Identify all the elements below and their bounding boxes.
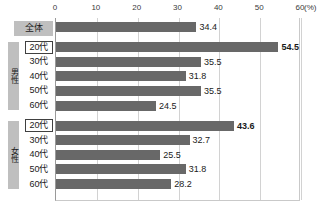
- bar-value-label: 43.6: [237, 121, 255, 131]
- bar-value-label: 31.8: [189, 164, 207, 174]
- bar: [56, 22, 196, 32]
- bar: [56, 121, 234, 131]
- category-label-10: 60代: [25, 178, 53, 191]
- bar-value-label: 31.8: [189, 71, 207, 81]
- bar-row: 31.8: [56, 71, 299, 81]
- bar: [56, 135, 190, 145]
- x-axis-tick-40: 40: [214, 3, 223, 13]
- bar: [56, 101, 156, 111]
- group-tab-label: 男性: [9, 68, 18, 84]
- x-axis-tick-10: 10: [91, 3, 100, 13]
- category-label-6: 20代: [25, 119, 53, 132]
- bar-row: 35.5: [56, 86, 299, 96]
- category-label-3: 40代: [25, 70, 53, 83]
- x-axis-ticks: 0102030405060(%): [55, 0, 313, 18]
- category-label-1: 20代: [25, 41, 53, 54]
- bar-value-label: 35.5: [204, 57, 222, 67]
- group-tab-女性: 女性: [8, 121, 19, 189]
- category-label-7: 30代: [25, 134, 53, 147]
- category-label-8: 40代: [25, 148, 53, 161]
- gridline-60: [301, 18, 302, 200]
- bar-chart: 0102030405060(%) 34.454.535.531.835.524.…: [0, 0, 320, 203]
- bar-row: 28.2: [56, 179, 299, 189]
- category-label-9: 50代: [25, 163, 53, 176]
- bar: [56, 164, 186, 174]
- bar-row: 35.5: [56, 57, 299, 67]
- bar-row: 25.5: [56, 150, 299, 160]
- bar-value-label: 34.4: [199, 22, 217, 32]
- category-label-2: 30代: [25, 55, 53, 68]
- x-axis-unit-label: (%): [304, 3, 316, 13]
- group-tab-label: 女性: [9, 147, 18, 163]
- bar-value-label: 25.5: [163, 150, 181, 160]
- bar-rows: 34.454.535.531.835.524.543.632.725.531.8…: [56, 18, 299, 200]
- group-tab-男性: 男性: [8, 42, 19, 110]
- bar: [56, 57, 201, 67]
- bar: [56, 42, 278, 52]
- x-axis-tick-30: 30: [173, 3, 182, 13]
- x-axis-tick-20: 20: [132, 3, 141, 13]
- bar: [56, 150, 160, 160]
- x-axis-tick-0: 0: [53, 3, 57, 13]
- bar-row: 24.5: [56, 101, 299, 111]
- bar-row: 54.5: [56, 42, 299, 52]
- plot-area: 34.454.535.531.835.524.543.632.725.531.8…: [55, 18, 300, 201]
- bar-value-label: 32.7: [193, 135, 211, 145]
- bar-value-label: 54.5: [281, 42, 299, 52]
- bar-value-label: 35.5: [204, 86, 222, 96]
- bar: [56, 71, 186, 81]
- category-label-0: 全体: [14, 21, 53, 36]
- x-axis-tick-50: 50: [255, 3, 264, 13]
- bar-row: 32.7: [56, 135, 299, 145]
- category-labels: 全体20代30代40代50代60代20代30代40代50代60代男性女性: [0, 18, 55, 201]
- category-label-5: 60代: [25, 99, 53, 112]
- bar: [56, 86, 201, 96]
- category-label-4: 50代: [25, 84, 53, 97]
- bar-value-label: 24.5: [159, 101, 177, 111]
- bar: [56, 179, 171, 189]
- bar-row: 34.4: [56, 22, 299, 32]
- bar-row: 43.6: [56, 121, 299, 131]
- bar-value-label: 28.2: [174, 179, 192, 189]
- bar-row: 31.8: [56, 164, 299, 174]
